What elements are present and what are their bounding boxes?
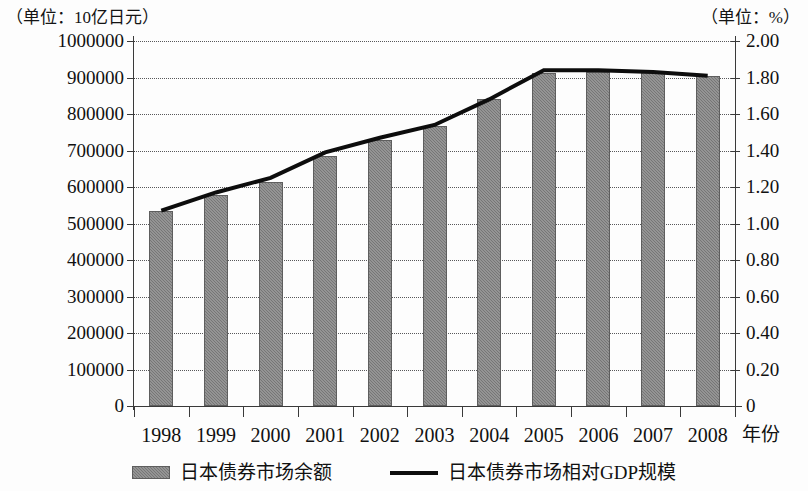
right-axis-tick [731, 151, 740, 152]
right-axis-tick [731, 370, 740, 371]
bar [696, 76, 720, 406]
x-axis-tick [571, 406, 572, 417]
x-axis-tick-label: 2007 [623, 424, 683, 446]
x-axis-tick-label: 2003 [405, 424, 465, 446]
bar [586, 72, 610, 406]
right-axis-tick [731, 41, 740, 42]
right-axis-tick-label: 0.60 [746, 287, 779, 306]
x-axis-tick-label: 2004 [459, 424, 519, 446]
x-axis-tick [680, 406, 681, 417]
bar [423, 126, 447, 406]
left-axis-tick [127, 260, 135, 261]
legend-bar-swatch-icon [132, 466, 170, 479]
x-axis-tick-label: 2002 [350, 424, 410, 446]
right-axis-tick-label: 0.80 [746, 250, 779, 269]
x-axis-tick-label: 1998 [131, 424, 191, 446]
right-axis-tick-label: 1.40 [746, 141, 779, 160]
x-axis-tick [243, 406, 244, 417]
left-axis-tick [127, 224, 135, 225]
left-axis-tick [127, 370, 135, 371]
left-axis-tick-label: 700000 [67, 141, 124, 160]
left-axis-tick-label: 600000 [67, 177, 124, 196]
x-axis-tick [353, 406, 354, 417]
bar [259, 182, 283, 406]
right-axis-tick [731, 333, 740, 334]
right-axis-tick-label: 0 [746, 396, 756, 415]
left-axis-tick-label: 900000 [67, 68, 124, 87]
right-axis-tick [731, 224, 740, 225]
left-axis-tick [127, 297, 135, 298]
bar [641, 71, 665, 406]
legend-line-swatch-icon [390, 471, 438, 475]
x-axis-tick [189, 406, 190, 417]
left-axis-tick-label: 1000000 [58, 31, 125, 50]
left-axis-tick-label: 100000 [67, 360, 124, 379]
right-axis-tick-label: 2.00 [746, 31, 779, 50]
x-axis-tick-label: 2000 [241, 424, 301, 446]
right-axis-tick-label: 1.00 [746, 214, 779, 233]
left-axis-unit-caption: （单位：10亿日元） [6, 3, 159, 28]
right-axis-tick [731, 260, 740, 261]
bar [477, 99, 501, 406]
left-axis-tick [127, 78, 135, 79]
bar [368, 140, 392, 406]
left-axis-tick-label: 0 [115, 396, 125, 415]
left-axis-tick [127, 114, 135, 115]
left-axis-tick [127, 151, 135, 152]
chart-figure: （单位：10亿日元） （单位：%） 1000000900000800000700… [0, 0, 808, 491]
bar [149, 211, 173, 406]
x-axis-tick-label: 2006 [568, 424, 628, 446]
legend-item-line: 日本债券市场相对GDP规模 [390, 462, 676, 483]
bar [532, 73, 556, 406]
left-axis-tick [127, 187, 135, 188]
x-axis-tick [407, 406, 408, 417]
left-axis-tick-label: 800000 [67, 104, 124, 123]
right-axis-unit-caption: （单位：%） [701, 3, 800, 28]
right-axis-tick-label: 1.20 [746, 177, 779, 196]
x-axis-tick [626, 406, 627, 417]
right-axis-tick [731, 78, 740, 79]
legend-label-bar: 日本债券市场余额 [180, 462, 332, 483]
chart-legend: 日本债券市场余额 日本债券市场相对GDP规模 [0, 462, 808, 483]
right-axis-tick-label: 1.60 [746, 104, 779, 123]
left-axis-tick-label: 400000 [67, 250, 124, 269]
bar [204, 195, 228, 406]
x-axis-tick [462, 406, 463, 417]
x-axis-tick [735, 406, 736, 417]
x-axis-tick [134, 406, 135, 417]
left-axis-tick-label: 500000 [67, 214, 124, 233]
legend-item-bar: 日本债券市场余额 [132, 462, 332, 483]
right-axis-tick-label: 0.20 [746, 360, 779, 379]
gridline [134, 41, 735, 42]
x-axis-tick-label: 1999 [186, 424, 246, 446]
right-axis-tick-label: 0.40 [746, 323, 779, 342]
right-axis-tick-label: 1.80 [746, 68, 779, 87]
x-axis-tick [516, 406, 517, 417]
right-axis-tick [731, 187, 740, 188]
right-axis-tick [731, 297, 740, 298]
x-axis-tick-label: 2005 [514, 424, 574, 446]
x-axis-title: 年份 [742, 424, 780, 446]
left-axis-tick [127, 333, 135, 334]
bar [313, 156, 337, 406]
left-axis-tick-label: 300000 [67, 287, 124, 306]
right-axis-tick [731, 114, 740, 115]
legend-label-line: 日本债券市场相对GDP规模 [448, 462, 676, 483]
x-axis-tick [298, 406, 299, 417]
x-axis-tick-label: 2008 [678, 424, 738, 446]
x-axis-tick-label: 2001 [295, 424, 355, 446]
plot-area [134, 41, 735, 406]
left-axis-tick [127, 41, 135, 42]
x-axis-line [128, 406, 742, 407]
left-axis-tick-label: 200000 [67, 323, 124, 342]
